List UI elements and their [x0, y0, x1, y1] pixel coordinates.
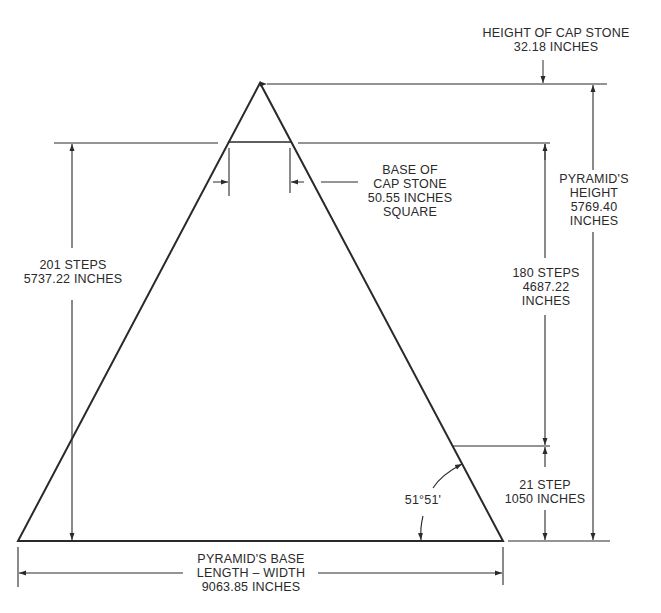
angle-arc-upper: [433, 464, 462, 488]
base-label: PYRAMID'S BASE LENGTH – WIDTH 9063.85 IN…: [186, 552, 316, 594]
left-steps-label: 201 STEPS 5737.22 INCHES: [20, 258, 126, 286]
pyramid-height-label: PYRAMID'S HEIGHT 5769.40 INCHES: [554, 172, 634, 228]
angle-label: 51°51': [398, 493, 448, 507]
upper-steps-label: 180 STEPS 4687.22 INCHES: [508, 266, 584, 308]
pyramid-triangle: [18, 83, 503, 541]
cap-height-label: HEIGHT OF CAP STONE 32.18 INCHES: [478, 26, 634, 54]
cap-base-label: BASE OF CAP STONE 50.55 INCHES SQUARE: [358, 163, 462, 219]
angle-arc-lower: [421, 516, 423, 540]
lower-steps-label: 21 STEP 1050 INCHES: [502, 478, 588, 506]
